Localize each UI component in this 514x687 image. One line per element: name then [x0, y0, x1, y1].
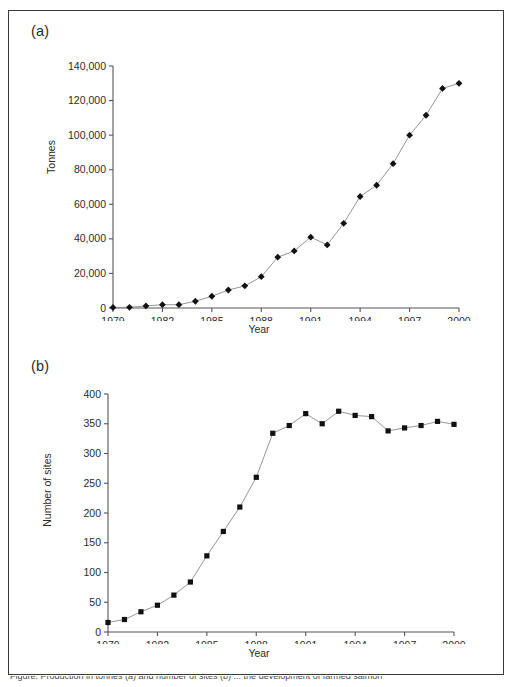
data-point-marker	[126, 304, 133, 311]
data-point-marker	[357, 193, 364, 200]
x-tick-label: 1994	[348, 315, 372, 321]
y-tick-label: 80,000	[74, 163, 106, 175]
y-tick-label: 100	[83, 566, 101, 578]
y-tick-label: 100,000	[68, 129, 106, 141]
data-point-marker	[353, 413, 358, 418]
x-tick-label: 1982	[151, 315, 175, 321]
y-tick-label: 0	[100, 302, 106, 314]
data-point-marker	[171, 593, 176, 598]
y-tick-label: 300	[83, 447, 101, 459]
y-tick-label: 400	[83, 388, 101, 400]
chart-panel-b: (b) Number of sites 05010015020025030035…	[9, 344, 505, 674]
x-tick-label: 1988	[250, 315, 274, 321]
x-tick-label: 1985	[195, 639, 219, 644]
x-tick-label: 1991	[294, 639, 318, 644]
data-point-marker	[188, 579, 193, 584]
data-point-marker	[204, 553, 209, 558]
data-point-marker	[439, 85, 446, 92]
y-tick-label: 150	[83, 536, 101, 548]
x-tick-label: 1997	[398, 315, 422, 321]
data-point-marker	[320, 421, 325, 426]
y-tick-label: 0	[95, 626, 101, 638]
panel-b-plot: 0501001502002503003504001979198219851988…	[9, 344, 505, 644]
data-point-marker	[241, 282, 248, 289]
x-tick-label: 1988	[245, 639, 269, 644]
data-point-marker	[456, 80, 463, 87]
data-point-marker	[336, 409, 341, 414]
panel-b-x-axis-label: Year	[49, 647, 469, 659]
x-tick-label: 1979	[96, 639, 120, 644]
x-tick-label: 1982	[146, 639, 170, 644]
data-point-marker	[451, 422, 456, 427]
y-tick-label: 200	[83, 507, 101, 519]
data-point-marker	[418, 423, 423, 428]
data-point-marker	[105, 620, 110, 625]
y-tick-label: 60,000	[74, 198, 106, 210]
figure-border: (a) Tonnes 020,00040,00060,00080,000100,…	[8, 10, 504, 675]
data-point-marker	[385, 428, 390, 433]
panel-a-plot: 020,00040,00060,00080,000100,000120,0001…	[9, 11, 505, 321]
data-point-marker	[221, 529, 226, 534]
series-line	[113, 83, 459, 307]
data-point-marker	[155, 603, 160, 608]
data-point-marker	[369, 414, 374, 419]
y-tick-label: 350	[83, 417, 101, 429]
data-point-marker	[159, 301, 166, 308]
y-tick-label: 40,000	[74, 232, 106, 244]
chart-panel-a: (a) Tonnes 020,00040,00060,00080,000100,…	[9, 11, 505, 344]
data-point-marker	[192, 298, 199, 305]
data-point-marker	[138, 609, 143, 614]
y-tick-label: 120,000	[68, 94, 106, 106]
data-point-marker	[402, 425, 407, 430]
data-point-marker	[340, 220, 347, 227]
x-tick-label: 1979	[101, 315, 125, 321]
y-tick-label: 140,000	[68, 60, 106, 72]
data-point-marker	[225, 287, 232, 294]
y-tick-label: 250	[83, 477, 101, 489]
x-tick-label: 1997	[393, 639, 417, 644]
panel-a-x-axis-label: Year	[49, 323, 469, 335]
data-point-marker	[270, 431, 275, 436]
data-point-marker	[176, 301, 183, 308]
data-point-marker	[208, 293, 215, 300]
x-tick-label: 2000	[442, 639, 466, 644]
x-tick-label: 1985	[200, 315, 224, 321]
x-tick-label: 1994	[343, 639, 367, 644]
data-point-marker	[254, 475, 259, 480]
data-point-marker	[390, 160, 397, 167]
data-point-marker	[237, 504, 242, 509]
x-tick-label: 2000	[447, 315, 471, 321]
data-point-marker	[303, 411, 308, 416]
y-tick-label: 50	[89, 596, 101, 608]
figure-caption: Figure. Production in tonnes (a) and num…	[10, 676, 504, 687]
series-line	[108, 411, 454, 622]
data-point-marker	[110, 304, 117, 311]
data-point-marker	[287, 423, 292, 428]
y-tick-label: 20,000	[74, 267, 106, 279]
data-point-marker	[122, 617, 127, 622]
x-tick-label: 1991	[299, 315, 323, 321]
data-point-marker	[435, 419, 440, 424]
